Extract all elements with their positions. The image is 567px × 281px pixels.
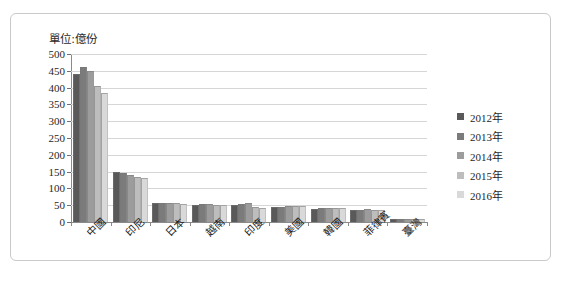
legend-item-label: 2015年 bbox=[470, 167, 503, 183]
bar bbox=[271, 207, 278, 222]
chart-legend: 2012年2013年2014年2015年2016年 bbox=[457, 107, 503, 205]
y-tick-label: 150 bbox=[49, 166, 66, 178]
bar bbox=[141, 178, 148, 222]
bar bbox=[311, 209, 318, 222]
bar bbox=[199, 204, 206, 222]
x-tick-mark bbox=[427, 222, 428, 226]
bar bbox=[94, 86, 101, 222]
bar bbox=[278, 207, 285, 222]
bar bbox=[397, 219, 404, 222]
legend-item-label: 2012年 bbox=[470, 109, 503, 125]
legend-item[interactable]: 2014年 bbox=[457, 146, 503, 166]
x-tick-mark bbox=[190, 222, 191, 226]
bar bbox=[152, 203, 159, 222]
legend-item-label: 2013年 bbox=[470, 128, 503, 144]
x-tick-mark bbox=[348, 222, 349, 226]
legend-swatch-icon bbox=[457, 152, 464, 159]
legend-item-label: 2014年 bbox=[470, 148, 503, 164]
x-tick-mark bbox=[308, 222, 309, 226]
bar bbox=[73, 74, 80, 222]
x-tick-mark bbox=[111, 222, 112, 226]
y-tick-label: 350 bbox=[49, 98, 66, 110]
bar bbox=[192, 205, 199, 222]
y-tick-label: 500 bbox=[49, 48, 66, 60]
y-tick-label: 200 bbox=[49, 149, 66, 161]
bar bbox=[101, 93, 108, 222]
legend-swatch-icon bbox=[457, 191, 464, 198]
bar bbox=[357, 210, 364, 222]
legend-swatch-icon bbox=[457, 113, 464, 120]
bar bbox=[159, 203, 166, 222]
y-tick-label: 0 bbox=[60, 216, 66, 228]
bar bbox=[318, 208, 325, 222]
bar bbox=[87, 71, 94, 222]
bar-group bbox=[71, 54, 111, 222]
x-tick-mark bbox=[269, 222, 270, 226]
bar bbox=[231, 205, 238, 222]
legend-swatch-icon bbox=[457, 133, 464, 140]
bar-group bbox=[150, 54, 190, 222]
bar bbox=[113, 172, 120, 222]
bar bbox=[120, 173, 127, 222]
y-tick-label: 300 bbox=[49, 115, 66, 127]
bar bbox=[80, 67, 87, 222]
legend-item[interactable]: 2015年 bbox=[457, 166, 503, 186]
legend-item[interactable]: 2013年 bbox=[457, 127, 503, 147]
bar-group bbox=[229, 54, 269, 222]
y-tick-label: 50 bbox=[54, 199, 65, 211]
y-tick-label: 100 bbox=[49, 182, 66, 194]
bar-group bbox=[190, 54, 230, 222]
bar-group bbox=[111, 54, 151, 222]
legend-swatch-icon bbox=[457, 172, 464, 179]
unit-label: 單位:億份 bbox=[49, 30, 98, 46]
x-tick-mark bbox=[71, 222, 72, 226]
bar bbox=[390, 219, 397, 222]
bar bbox=[350, 210, 357, 222]
chart-frame: 單位:億份 050100150200250300350400450500 中國印… bbox=[10, 13, 551, 261]
bar-group bbox=[308, 54, 348, 222]
legend-item[interactable]: 2012年 bbox=[457, 107, 503, 127]
x-tick-mark bbox=[229, 222, 230, 226]
y-tick-label: 400 bbox=[49, 82, 66, 94]
legend-item[interactable]: 2016年 bbox=[457, 185, 503, 205]
x-tick-mark bbox=[150, 222, 151, 226]
bar bbox=[238, 204, 245, 222]
plot-area: 050100150200250300350400450500 中國印尼日本越南印… bbox=[71, 54, 427, 222]
legend-item-label: 2016年 bbox=[470, 187, 503, 203]
bar-group bbox=[348, 54, 388, 222]
bars-layer bbox=[71, 54, 427, 222]
y-tick-label: 450 bbox=[49, 65, 66, 77]
y-tick-label: 250 bbox=[49, 132, 66, 144]
bar-group bbox=[387, 54, 427, 222]
bar bbox=[127, 175, 134, 222]
bar-group bbox=[269, 54, 309, 222]
